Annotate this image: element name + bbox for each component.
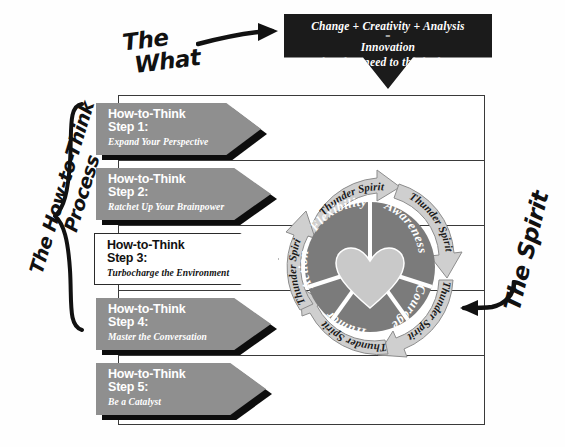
step-5-subtitle: Be a Catalyst: [108, 397, 266, 407]
step-4-number: Step 4:: [108, 316, 271, 329]
step-3-number: Step 3:: [107, 252, 278, 265]
step-arrow-1[interactable]: How-to-Think Step 1: Expand Your Perspec…: [96, 103, 261, 155]
step-2-subtitle: Ratchet Up Your Brainpower: [108, 202, 271, 212]
step-arrow-2-body: How-to-Think Step 2: Ratchet Up Your Bra…: [96, 168, 271, 220]
step-arrow-3[interactable]: How-to-Think Step 3: Turbocharge the Env…: [94, 233, 279, 285]
step-5-number: Step 5:: [108, 381, 266, 394]
step-3-subtitle: Turbocharge the Environment: [107, 268, 278, 278]
what-banner: Change + Creativity + Analysis = Innovat…: [284, 14, 492, 89]
banner-line-3: Innovation: [284, 41, 492, 53]
frame-divider-1: [118, 160, 485, 161]
step-arrow-5[interactable]: How-to-Think Step 5: Be a Catalyst: [96, 363, 266, 415]
step-4-subtitle: Master the Conversation: [108, 332, 271, 342]
what-arrow-icon: [196, 22, 286, 62]
step-1-number: Step 1:: [108, 121, 261, 134]
annotation-the-spirit: The Spirit: [489, 151, 565, 353]
brace-icon: [52, 100, 92, 335]
step-1-subtitle: Expand Your Perspective: [108, 137, 261, 147]
step-arrow-4-body: How-to-Think Step 4: Master the Conversa…: [96, 298, 271, 350]
banner-line-2: =: [284, 33, 492, 40]
diagram-canvas: Change + Creativity + Analysis = Innovat…: [0, 0, 565, 447]
step-arrow-5-body: How-to-Think Step 5: Be a Catalyst: [96, 363, 266, 415]
step-arrow-2[interactable]: How-to-Think Step 2: Ratchet Up Your Bra…: [96, 168, 271, 220]
banner-line-4: What do I need to think about?: [284, 56, 492, 68]
step-arrow-4[interactable]: How-to-Think Step 4: Master the Conversa…: [96, 298, 271, 350]
step-arrow-3-body: How-to-Think Step 3: Turbocharge the Env…: [94, 233, 279, 285]
step-arrow-1-body: How-to-Think Step 1: Expand Your Perspec…: [96, 103, 261, 155]
step-2-number: Step 2:: [108, 186, 271, 199]
spirit-wheel: Thunder Spirit Thunder Spirit Thunder Sp…: [258, 168, 483, 373]
